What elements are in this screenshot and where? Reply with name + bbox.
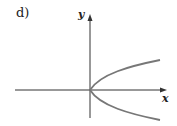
parabola-diagram: d) y x — [0, 0, 177, 126]
y-axis-label: y — [78, 8, 84, 21]
x-axis-label: x — [162, 92, 169, 105]
y-axis-arrow-icon — [88, 14, 93, 21]
figure-label: d) — [16, 5, 29, 20]
